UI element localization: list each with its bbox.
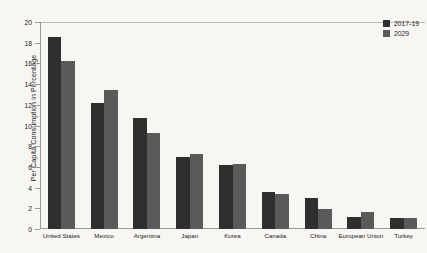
chart-legend: 2017-192029: [383, 20, 419, 40]
bar: [275, 194, 289, 229]
y-tick-mark: [35, 105, 40, 106]
bar: [347, 217, 361, 229]
x-tick-label: Argentina: [134, 232, 161, 239]
bar-group: [176, 22, 203, 229]
y-tick-label: 14: [24, 81, 32, 88]
bar-group: [347, 22, 374, 229]
x-tick-label: Mexico: [94, 232, 114, 239]
bar: [233, 164, 247, 229]
bar-group: [305, 22, 332, 229]
x-tick-label: Japan: [181, 232, 198, 239]
bar: [219, 165, 233, 229]
bar: [318, 209, 332, 229]
y-tick-label: 18: [24, 39, 32, 46]
y-tick-mark: [35, 229, 40, 230]
bar-group: [390, 22, 417, 229]
bar-group: [262, 22, 289, 229]
bar: [190, 154, 204, 229]
bar-group: [91, 22, 118, 229]
y-tick-label: 8: [28, 143, 32, 150]
y-tick-mark: [35, 84, 40, 85]
x-tick-label: Korea: [224, 232, 241, 239]
bar: [133, 118, 147, 229]
legend-swatch-icon: [383, 20, 390, 27]
x-tick-label: United States: [43, 232, 80, 239]
bar: [147, 133, 161, 229]
x-tick-label: Turkey: [394, 232, 413, 239]
bar: [404, 218, 418, 229]
bar-group: [219, 22, 246, 229]
y-tick-mark: [35, 63, 40, 64]
legend-swatch-icon: [383, 30, 390, 37]
plot-area: 02468101214161820 United StatesMexicoArg…: [40, 22, 425, 229]
y-tick-label: 12: [24, 101, 32, 108]
bar-group: [133, 22, 160, 229]
bar-chart: Per Capita Consumption in Percentage 024…: [0, 0, 427, 253]
bar: [48, 37, 62, 230]
x-tick-label: China: [310, 232, 326, 239]
x-tick-label: European Union: [338, 232, 383, 239]
bar: [176, 157, 190, 229]
y-tick-label: 6: [28, 163, 32, 170]
legend-item: 2017-19: [383, 20, 419, 27]
y-tick-mark: [35, 126, 40, 127]
y-tick-label: 10: [24, 122, 32, 129]
y-tick-mark: [35, 22, 40, 23]
legend-label: 2029: [394, 30, 409, 37]
bar: [361, 212, 375, 229]
legend-item: 2029: [383, 30, 419, 37]
y-tick-label: 0: [28, 226, 32, 233]
legend-label: 2017-19: [394, 20, 419, 27]
y-tick-mark: [35, 188, 40, 189]
bar: [262, 192, 276, 229]
bar: [104, 90, 118, 229]
y-tick-mark: [35, 146, 40, 147]
y-tick-mark: [35, 167, 40, 168]
bar: [61, 61, 75, 229]
y-tick-label: 20: [24, 19, 32, 26]
y-tick-label: 4: [28, 184, 32, 191]
bar: [305, 198, 319, 229]
y-tick-mark: [35, 43, 40, 44]
y-tick-label: 16: [24, 60, 32, 67]
x-tick-label: Canada: [264, 232, 286, 239]
bar-group: [48, 22, 75, 229]
bar: [91, 103, 105, 229]
y-tick-mark: [35, 208, 40, 209]
bar: [390, 218, 404, 229]
y-axis-line: [40, 22, 41, 229]
y-tick-label: 2: [28, 205, 32, 212]
